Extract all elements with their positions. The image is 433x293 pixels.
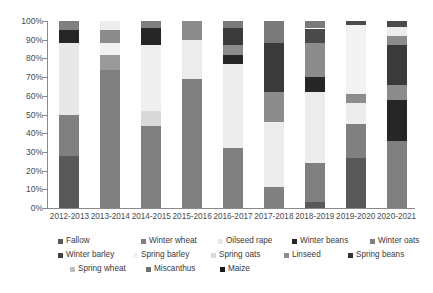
legend-item[interactable]: Fallow [58, 236, 90, 246]
bar-segment[interactable] [346, 94, 366, 103]
bar-segment[interactable] [59, 156, 79, 208]
bar-segment[interactable] [141, 28, 161, 45]
legend-item[interactable]: Winter oats [370, 236, 419, 246]
legend-item[interactable]: Miscanthus [146, 264, 195, 274]
bar-segment[interactable] [346, 103, 366, 124]
bar-segment[interactable] [387, 21, 407, 27]
bar-segment[interactable] [346, 21, 366, 25]
legend-swatch-icon [211, 253, 216, 258]
bar-segment[interactable] [387, 45, 407, 84]
bar-segment[interactable] [100, 70, 120, 208]
bar-segment[interactable] [305, 43, 325, 77]
legend-item[interactable]: Winter barley [58, 250, 114, 260]
bar-segment[interactable] [264, 122, 284, 187]
y-axis-tick-mark [43, 21, 47, 22]
chart-legend: FallowWinter wheatOilseed rapeWinter bea… [58, 236, 418, 278]
y-axis-tick-label: 80% [3, 54, 43, 63]
legend-label: Miscanthus [154, 264, 195, 274]
bar-segment[interactable] [223, 28, 243, 45]
bar-stack[interactable] [100, 21, 120, 208]
y-axis-tick-mark [43, 133, 47, 134]
legend-swatch-icon [141, 239, 146, 244]
legend-label: Winter wheat [149, 236, 197, 246]
bar-stack[interactable] [264, 21, 284, 208]
bar-segment[interactable] [141, 126, 161, 208]
bar-segment[interactable] [223, 64, 243, 148]
bar-segment[interactable] [387, 27, 407, 36]
y-axis-tick-mark [43, 152, 47, 153]
bar-segment[interactable] [141, 21, 161, 28]
bar-segment[interactable] [223, 55, 243, 64]
bar-segment[interactable] [100, 21, 120, 30]
legend-item[interactable]: Spring barley [133, 250, 189, 260]
bar-segment[interactable] [223, 45, 243, 54]
bar-segment[interactable] [182, 21, 202, 40]
y-axis-tick-mark [43, 208, 47, 209]
bar-segment[interactable] [223, 21, 243, 28]
bar-segment[interactable] [346, 158, 366, 208]
bar-segment[interactable] [182, 79, 202, 208]
bar-segment[interactable] [387, 85, 407, 100]
bar-segment[interactable] [264, 21, 284, 43]
bar-segment[interactable] [387, 100, 407, 141]
bar-segment[interactable] [59, 30, 79, 43]
x-axis-tick-label: 2020-2021 [369, 212, 425, 222]
legend-swatch-icon [58, 253, 63, 258]
bar-segment[interactable] [100, 43, 120, 54]
bar-segment[interactable] [346, 25, 366, 94]
legend-row: Spring wheatMiscanthusMaize [58, 264, 418, 278]
bar-segment[interactable] [59, 115, 79, 156]
bar-segment[interactable] [100, 30, 120, 43]
legend-label: Linseed [292, 250, 321, 260]
legend-item[interactable]: Maize [220, 264, 250, 274]
legend-label: Spring oats [219, 250, 260, 260]
bar-segment[interactable] [305, 92, 325, 163]
bar-segment[interactable] [141, 45, 161, 110]
bar-segment[interactable] [387, 141, 407, 208]
bar-stack[interactable] [346, 21, 366, 208]
legend-label: Oilseed rape [226, 236, 272, 246]
legend-item[interactable]: Winter beans [292, 236, 348, 246]
bar-stack[interactable] [223, 21, 243, 208]
bar-segment[interactable] [182, 40, 202, 79]
bar-segment[interactable] [387, 36, 407, 45]
legend-item[interactable]: Spring beans [348, 250, 404, 260]
bar-segment[interactable] [100, 55, 120, 70]
y-axis-tick-mark [43, 77, 47, 78]
y-axis-tick-label: 40% [3, 129, 43, 138]
legend-row: FallowWinter wheatOilseed rapeWinter bea… [58, 236, 418, 250]
legend-item[interactable]: Oilseed rape [218, 236, 272, 246]
bar-segment[interactable] [264, 92, 284, 122]
y-axis-tick-mark [43, 96, 47, 97]
bar-segment[interactable] [223, 148, 243, 208]
bar-segment[interactable] [305, 163, 325, 202]
legend-item[interactable]: Linseed [284, 250, 321, 260]
bar-segment[interactable] [346, 124, 366, 158]
legend-item[interactable]: Spring oats [211, 250, 260, 260]
y-axis-line [47, 21, 48, 209]
bar-segment[interactable] [305, 202, 325, 208]
legend-swatch-icon [220, 267, 225, 272]
y-axis-tick-mark [43, 189, 47, 190]
legend-row: Winter barleySpring barleySpring oatsLin… [58, 250, 418, 264]
bar-segment[interactable] [264, 43, 284, 92]
legend-item[interactable]: Spring wheat [70, 264, 126, 274]
bar-stack[interactable] [141, 21, 161, 208]
bar-segment[interactable] [141, 111, 161, 126]
bar-segment[interactable] [305, 29, 325, 44]
legend-swatch-icon [70, 267, 75, 272]
bar-stack[interactable] [59, 21, 79, 208]
bar-segment[interactable] [305, 77, 325, 92]
bar-stack[interactable] [182, 21, 202, 208]
legend-swatch-icon [218, 239, 223, 244]
y-axis-tick-label: 70% [3, 73, 43, 82]
bar-segment[interactable] [59, 43, 79, 114]
bar-segment[interactable] [305, 21, 325, 28]
bar-stack[interactable] [387, 21, 407, 208]
y-axis-tick-mark [43, 40, 47, 41]
bar-stack[interactable] [305, 21, 325, 208]
bar-segment[interactable] [264, 187, 284, 208]
legend-label: Winter barley [66, 250, 114, 260]
bar-segment[interactable] [59, 21, 79, 30]
legend-item[interactable]: Winter wheat [141, 236, 197, 246]
